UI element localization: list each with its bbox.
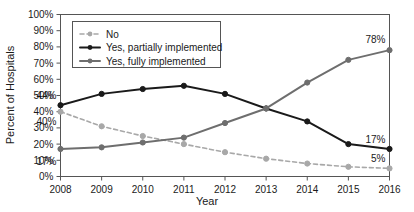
data-point (58, 109, 63, 114)
data-point (305, 161, 310, 166)
legend-label: Yes, partially implemented (106, 42, 222, 53)
y-axis-tick-label: 0% (39, 171, 54, 182)
data-point (346, 164, 351, 169)
x-axis-tick-label: 2015 (337, 184, 360, 195)
data-point (99, 124, 104, 129)
data-point-label: 17% (365, 134, 385, 145)
data-point (346, 57, 351, 62)
data-point (264, 106, 269, 111)
data-point (305, 119, 310, 124)
y-axis-tick-label: 100% (28, 9, 54, 20)
data-point (222, 120, 227, 125)
legend-swatch-marker (88, 59, 93, 64)
x-axis-tick-label: 2010 (132, 184, 155, 195)
data-point (387, 166, 392, 171)
chart-container: 0%10%20%30%40%50%60%70%80%90%100% 200820… (0, 0, 414, 212)
data-point-label: 17% (36, 156, 56, 167)
y-axis-tick-label: 60% (33, 74, 53, 85)
data-point (58, 146, 63, 151)
y-axis-title: Percent of Hospitals (4, 45, 16, 144)
legend-swatch-marker (88, 32, 93, 37)
x-axis: 200820092010201120122013201420152016 (49, 177, 401, 195)
x-axis-tick-label: 2009 (91, 184, 114, 195)
x-axis-tick-label: 2013 (255, 184, 278, 195)
data-point (305, 80, 310, 85)
data-point (181, 83, 186, 88)
data-point (140, 86, 145, 91)
x-axis-tick-label: 2016 (378, 184, 401, 195)
x-axis-tick-label: 2012 (214, 184, 237, 195)
legend-label: No (106, 29, 119, 40)
data-point (58, 103, 63, 108)
chart-legend: NoYes, partially implementedYes, fully i… (73, 22, 223, 68)
data-point (181, 135, 186, 140)
data-point (387, 146, 392, 151)
x-axis-tick-label: 2014 (296, 184, 319, 195)
y-axis-tick-label: 80% (33, 41, 53, 52)
data-point (140, 140, 145, 145)
data-point (222, 91, 227, 96)
data-point (99, 91, 104, 96)
data-point-label: 44% (36, 90, 56, 101)
data-point (387, 48, 392, 53)
data-point (99, 145, 104, 150)
x-axis-tick-label: 2011 (173, 184, 195, 195)
y-axis-tick-label: 90% (33, 25, 53, 36)
data-point (346, 142, 351, 147)
y-axis-tick-label: 20% (33, 139, 53, 150)
data-point-label: 40% (36, 116, 56, 127)
legend-swatch-marker (88, 45, 93, 50)
y-axis-tick-label: 70% (33, 58, 53, 69)
data-point (140, 133, 145, 138)
x-axis-title: Year (196, 195, 219, 207)
data-point (181, 142, 186, 147)
legend-label: Yes, fully implemented (106, 56, 206, 67)
data-point-label: 78% (365, 34, 385, 45)
data-point (264, 156, 269, 161)
line-chart: 0%10%20%30%40%50%60%70%80%90%100% 200820… (0, 0, 414, 212)
x-axis-tick-label: 2008 (49, 184, 72, 195)
data-point-label: 5% (371, 153, 386, 164)
data-point (222, 150, 227, 155)
